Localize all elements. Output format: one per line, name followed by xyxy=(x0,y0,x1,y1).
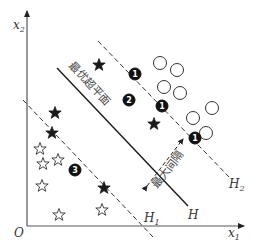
empty-circle-points xyxy=(154,57,219,140)
y-axis-label: x2 xyxy=(13,18,25,34)
empty-star-point xyxy=(52,154,64,166)
empty-circle-point xyxy=(154,57,167,70)
point-number: 1 xyxy=(192,134,198,143)
empty-star-point xyxy=(96,204,108,216)
empty-circle-point xyxy=(174,87,187,100)
h2-label: H2 xyxy=(228,177,245,193)
point-number: 2 xyxy=(126,96,132,105)
empty-circle-point xyxy=(158,81,171,94)
filled-circle-point: 1 xyxy=(129,68,141,80)
point-number: 3 xyxy=(72,166,78,175)
hyperplane-label: H xyxy=(187,208,199,222)
empty-star-point xyxy=(37,158,49,170)
point-number: 1 xyxy=(159,102,165,111)
svm-diagram: x2 x1 O H H1 H2 最大间隔 最优超平面 12113 xyxy=(0,0,253,251)
filled-star-point xyxy=(49,107,61,119)
filled-star-point xyxy=(98,182,110,194)
filled-star-points xyxy=(46,59,160,194)
empty-circle-point xyxy=(206,102,219,115)
origin-label: O xyxy=(14,226,24,240)
x-axis-label: x1 xyxy=(228,226,240,242)
filled-circle-point: 1 xyxy=(189,132,201,144)
empty-star-point xyxy=(53,209,65,221)
filled-circle-point: 2 xyxy=(123,94,135,106)
h1-label: H1 xyxy=(143,211,160,227)
optimal-hyperplane-label: 最优超平面 xyxy=(66,58,114,108)
filled-star-point xyxy=(93,59,105,71)
filled-circle-point: 3 xyxy=(69,164,81,176)
empty-circle-point xyxy=(187,112,200,125)
filled-star-point xyxy=(46,127,58,139)
filled-star-point xyxy=(148,118,160,130)
point-number: 1 xyxy=(132,70,138,79)
empty-circle-point xyxy=(171,64,184,77)
empty-star-point xyxy=(34,143,46,155)
empty-star-points xyxy=(34,143,108,221)
h1-dashed-line xyxy=(23,100,153,237)
empty-star-point xyxy=(36,180,48,192)
filled-circle-point: 1 xyxy=(156,100,168,112)
